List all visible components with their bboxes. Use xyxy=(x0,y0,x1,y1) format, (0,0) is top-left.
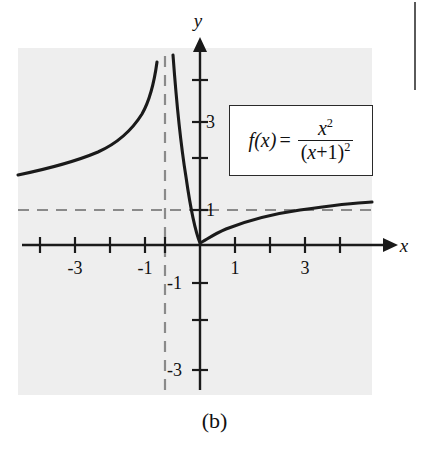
equation-equals-sign: = xyxy=(279,129,290,152)
equation-box: f(x) = x2 (x+1)2 xyxy=(229,105,373,176)
numerator-exponent: 2 xyxy=(327,116,333,130)
x-axis-arrowhead xyxy=(383,238,398,252)
y-tick-label--3: -3 xyxy=(167,360,197,381)
y-axis-arrowhead xyxy=(193,37,207,52)
x-tick-label--1: -1 xyxy=(130,258,160,279)
figure-caption: (b) xyxy=(0,408,429,434)
x-tick-label-1: 1 xyxy=(220,258,250,279)
equation-content: f(x) = x2 (x+1)2 xyxy=(249,118,354,164)
numerator-variable: x xyxy=(318,117,327,139)
y-tick-label-3: 3 xyxy=(206,112,230,133)
x-axis-label: x xyxy=(399,235,409,256)
y-tick-label--1: -1 xyxy=(167,273,197,294)
y-tick-label-1: 1 xyxy=(206,200,230,221)
curve-left-branch xyxy=(18,62,157,175)
x-tick-label--3: -3 xyxy=(60,258,90,279)
graph-canvas: y x xyxy=(0,0,429,453)
denominator-plus-sign: + xyxy=(316,141,327,163)
equation-lhs: f(x) xyxy=(249,129,277,152)
x-tick-label-3: 3 xyxy=(290,258,320,279)
fraction-denominator: (x+1)2 xyxy=(298,141,354,163)
fraction-numerator: x2 xyxy=(312,118,339,140)
equation-fraction: x2 (x+1)2 xyxy=(298,118,354,164)
denominator-exponent: 2 xyxy=(344,141,350,155)
denominator-one: 1 xyxy=(328,141,338,163)
figure-container: y x -3 -1 1 3 3 1 -1 -3 f(x) = x2 (x+1)2… xyxy=(0,0,429,453)
y-axis-label: y xyxy=(192,10,203,31)
denominator-variable: x xyxy=(307,141,316,163)
